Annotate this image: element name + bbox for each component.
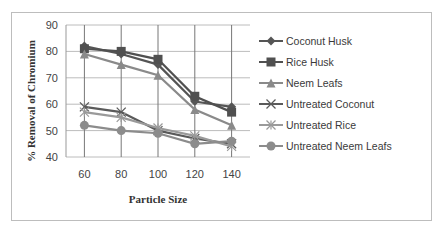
y-tick-label: 60	[46, 98, 58, 110]
legend-item: Coconut Husk	[258, 30, 392, 51]
legend-label: Rice Husk	[286, 56, 334, 68]
chart-legend: Coconut HuskRice HuskNeem LeafsUntreated…	[258, 30, 392, 156]
legend-item: Untreated Neem Leafs	[258, 135, 392, 156]
legend-label: Untreated Rice	[286, 119, 356, 131]
y-tick-label: 70	[46, 72, 58, 84]
legend-item: Untreated Coconut	[258, 93, 392, 114]
x-axis-label: Particle Size	[129, 193, 187, 205]
legend-x-icon	[258, 98, 284, 110]
legend-star-icon	[258, 119, 284, 131]
y-tick-label: 40	[46, 151, 58, 163]
legend-item: Rice Husk	[258, 51, 392, 72]
x-tick-label: 80	[115, 168, 127, 180]
y-tick-label: 90	[46, 19, 58, 31]
legend-label: Untreated Coconut	[286, 98, 374, 110]
legend-diamond-icon	[258, 35, 284, 47]
legend-label: Untreated Neem Leafs	[286, 140, 392, 152]
legend-label: Coconut Husk	[286, 35, 352, 47]
x-tick-label: 100	[149, 168, 167, 180]
legend-circle-icon	[258, 140, 284, 152]
legend-label: Neem Leafs	[286, 77, 343, 89]
x-tick-label: 140	[222, 168, 240, 180]
y-axis-label: % Removal of Chromium	[25, 40, 37, 162]
y-tick-label: 50	[46, 125, 58, 137]
x-tick-label: 60	[78, 168, 90, 180]
legend-item: Untreated Rice	[258, 114, 392, 135]
legend-item: Neem Leafs	[258, 72, 392, 93]
legend-triangle-icon	[258, 77, 284, 89]
x-tick-label: 120	[186, 168, 204, 180]
legend-square-icon	[258, 56, 284, 68]
y-tick-label: 80	[46, 45, 58, 57]
